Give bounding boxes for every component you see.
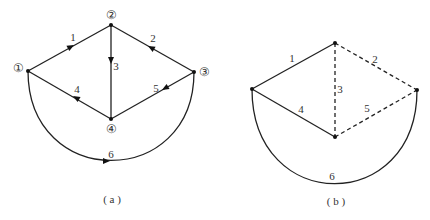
- edge-label: 2: [150, 32, 156, 44]
- node-a-4: [109, 117, 113, 121]
- edge-label: 3: [337, 83, 343, 95]
- edge-b-1: [252, 43, 335, 89]
- node-a-1: [26, 69, 30, 73]
- edge-label: 5: [364, 102, 370, 114]
- node-label: ②: [106, 8, 117, 22]
- edge-b-4: [252, 89, 335, 137]
- figure-b: 1 2 3 4 5 6 ( b ): [250, 41, 419, 208]
- node-b-2: [333, 41, 337, 45]
- edge-label: 3: [113, 60, 119, 72]
- node-b-4: [333, 135, 337, 139]
- edge-label: 6: [329, 170, 335, 182]
- arrow-icon: [147, 43, 156, 52]
- edge-a-4: [28, 71, 111, 119]
- edge-label: 1: [70, 31, 76, 43]
- arrow-icon: [66, 42, 75, 51]
- edge-b-2: [335, 43, 417, 90]
- node-b-3: [415, 88, 419, 92]
- node-label: ④: [106, 122, 117, 136]
- arrow-icon: [161, 84, 170, 93]
- node-a-3: [192, 70, 196, 74]
- edge-b-5: [335, 90, 417, 137]
- node-b-1: [250, 87, 254, 91]
- figure-a: ① ② ③ ④ 1 2 3 4 5 6 ( a ): [13, 8, 210, 206]
- edge-label: 6: [108, 148, 114, 160]
- node-label: ①: [13, 61, 24, 75]
- edge-a-5: [111, 72, 194, 119]
- edge-label: 4: [298, 103, 304, 115]
- caption-b: ( b ): [327, 195, 346, 208]
- edge-label: 5: [153, 82, 159, 94]
- edge-label: 4: [74, 83, 80, 95]
- graph-diagram: ① ② ③ ④ 1 2 3 4 5 6 ( a ) 1 2 3 4 5 6: [0, 0, 430, 220]
- caption-a: ( a ): [103, 193, 121, 206]
- edge-label: 2: [372, 53, 378, 65]
- edge-label: 1: [289, 52, 295, 64]
- node-label: ③: [199, 65, 210, 79]
- node-a-2: [109, 23, 113, 27]
